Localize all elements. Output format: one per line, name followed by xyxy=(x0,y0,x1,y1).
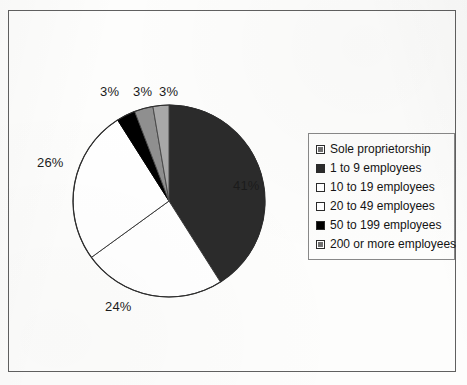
pie-label-3-right: 3% xyxy=(159,84,178,99)
legend-label-200-or-more: 200 or more employees xyxy=(330,238,456,251)
legend-label-10-to-19: 10 to 19 employees xyxy=(330,181,435,194)
legend-item-10-to-19: 10 to 19 employees xyxy=(316,178,448,196)
pie-chart xyxy=(72,104,266,298)
legend-item-50-to-199: 50 to 199 employees xyxy=(316,216,448,234)
legend-swatch-50-to-199 xyxy=(316,221,325,230)
legend-item-200-or-more: 200 or more employees xyxy=(316,235,448,253)
legend-item-1-to-9: 1 to 9 employees xyxy=(316,159,448,177)
legend-item-20-to-49: 20 to 49 employees xyxy=(316,197,448,215)
pie-svg xyxy=(72,104,266,298)
legend-swatch-10-to-19 xyxy=(316,183,325,192)
pie-label-3-left: 3% xyxy=(100,84,119,99)
legend-label-1-to-9: 1 to 9 employees xyxy=(330,162,421,175)
legend-item-sole-proprietorship: Sole proprietorship xyxy=(316,140,448,158)
legend-label-50-to-199: 50 to 199 employees xyxy=(330,219,441,232)
legend-swatch-sole-proprietorship xyxy=(316,145,325,154)
pie-label-41: 41% xyxy=(233,178,260,193)
legend-swatch-1-to-9 xyxy=(316,164,325,173)
chart-legend: Sole proprietorship 1 to 9 employees 10 … xyxy=(308,133,455,260)
pie-label-3-middle: 3% xyxy=(133,84,152,99)
pie-label-26: 26% xyxy=(37,155,64,170)
legend-label-sole-proprietorship: Sole proprietorship xyxy=(330,143,431,156)
legend-label-20-to-49: 20 to 49 employees xyxy=(330,200,435,213)
legend-swatch-200-or-more xyxy=(316,240,325,249)
legend-swatch-20-to-49 xyxy=(316,202,325,211)
pie-label-24: 24% xyxy=(105,299,132,314)
